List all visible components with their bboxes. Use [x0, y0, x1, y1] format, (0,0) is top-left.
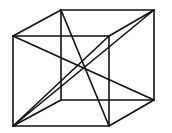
- edge-front_tr-back_tr: [109, 10, 154, 36]
- cube-wireframe-icon: [0, 0, 172, 133]
- diagonal-back_tl-front_br: [61, 10, 109, 126]
- cube-diagram: [0, 0, 172, 133]
- diagonal-back_tr-front_bl: [13, 10, 154, 126]
- edge-front_br-back_br: [109, 100, 154, 126]
- edge-front_tl-back_tl: [13, 10, 61, 36]
